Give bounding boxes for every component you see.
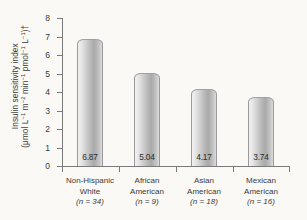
x-category-label-non-hispanic-white: Non-Hispanic White (n = 34) xyxy=(66,176,114,208)
x-tick-1 xyxy=(119,166,120,172)
y-tick-label-4: 4 xyxy=(45,87,50,97)
y-tick-label-0: 0 xyxy=(45,161,50,171)
y-axis-title-line2: (μmol L−1 m−2 min−1 pmol−1 L−1)† xyxy=(21,25,31,148)
x-tick-4 xyxy=(289,166,290,172)
cat2-line1: Asian xyxy=(187,176,221,187)
bar-value-asian-american: 4.17 xyxy=(192,152,216,162)
cat2-line3: (n = 18) xyxy=(187,197,221,208)
x-tick-3 xyxy=(233,166,234,172)
y-tick-5: 5 xyxy=(57,74,62,75)
bar-value-mexican-american: 3.74 xyxy=(249,152,273,162)
y-tick-label-6: 6 xyxy=(45,50,50,60)
y-tick-label-1: 1 xyxy=(45,143,50,153)
bar-value-non-hispanic-white: 6.87 xyxy=(78,152,102,162)
cat0-line1: Non-Hispanic xyxy=(66,176,114,187)
bar-non-hispanic-white: 6.87 xyxy=(77,39,103,166)
y-axis-unit-4: L−1 xyxy=(21,32,30,46)
cat0-line2: White xyxy=(66,187,114,198)
cat2-line2: American xyxy=(187,187,221,198)
x-category-label-asian-american: Asian American (n = 18) xyxy=(187,176,221,208)
y-axis-unit-1: m−2 xyxy=(21,96,30,112)
y-axis-line xyxy=(62,18,63,166)
x-tick-2 xyxy=(176,166,177,172)
cat3-line2: American xyxy=(244,187,278,198)
x-category-label-african-american: African American (n = 9) xyxy=(130,176,164,208)
y-axis-title-line1: Insulin sensitivity index xyxy=(11,43,20,129)
y-tick-label-5: 5 xyxy=(45,69,50,79)
y-axis-unit-5: )† xyxy=(21,25,30,32)
y-axis-unit-2: min−1 xyxy=(21,73,30,96)
bar-african-american: 5.04 xyxy=(134,73,160,166)
cat3-line3: (n = 16) xyxy=(244,197,278,208)
y-axis-unit-3: pmol−1 xyxy=(21,46,30,73)
cat1-line1: African xyxy=(130,176,164,187)
y-tick-1: 1 xyxy=(57,148,62,149)
y-axis-title-text: Insulin sensitivity index (μmol L−1 m−2 … xyxy=(11,25,32,148)
y-tick-6: 6 xyxy=(57,55,62,56)
y-tick-7: 7 xyxy=(57,37,62,38)
y-axis-title: Insulin sensitivity index (μmol L−1 m−2 … xyxy=(0,0,42,172)
y-tick-label-7: 7 xyxy=(45,32,50,42)
plot-area: 8 7 6 5 4 3 2 1 0 6.87 5.04 4.17 3.74 No… xyxy=(62,18,290,166)
y-tick-label-3: 3 xyxy=(45,106,50,116)
y-axis-unit-0: (μmol L−1 xyxy=(21,112,30,147)
bar-chart-figure: Insulin sensitivity index (μmol L−1 m−2 … xyxy=(0,0,307,220)
y-tick-2: 2 xyxy=(57,129,62,130)
cat1-line3: (n = 9) xyxy=(130,197,164,208)
y-tick-3: 3 xyxy=(57,111,62,112)
cat1-line2: American xyxy=(130,187,164,198)
y-tick-label-8: 8 xyxy=(45,13,50,23)
x-category-label-mexican-american: Mexican American (n = 16) xyxy=(244,176,278,208)
bar-mexican-american: 3.74 xyxy=(248,97,274,166)
bar-value-african-american: 5.04 xyxy=(135,152,159,162)
y-tick-8: 8 xyxy=(57,18,62,19)
x-tick-0 xyxy=(62,166,63,172)
cat0-line3: (n = 34) xyxy=(66,197,114,208)
y-tick-label-2: 2 xyxy=(45,124,50,134)
y-tick-4: 4 xyxy=(57,92,62,93)
bar-asian-american: 4.17 xyxy=(191,89,217,166)
cat3-line1: Mexican xyxy=(244,176,278,187)
